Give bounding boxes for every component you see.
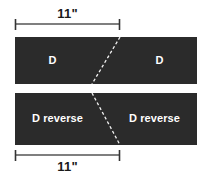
top-strip-right-region-label: D [122, 54, 197, 66]
bottom-strip-left-region-label: D reverse [15, 112, 100, 124]
cutting-diagram-graphics [0, 0, 209, 179]
bottom-dimension-label: 11" [15, 159, 120, 174]
top-strip-left-region-label: D [15, 54, 90, 66]
top-dimension-label: 11" [15, 6, 120, 21]
bottom-strip-right-region-label: D reverse [112, 112, 197, 124]
diagram-canvas: 11" D D D reverse D reverse 11" [0, 0, 209, 179]
